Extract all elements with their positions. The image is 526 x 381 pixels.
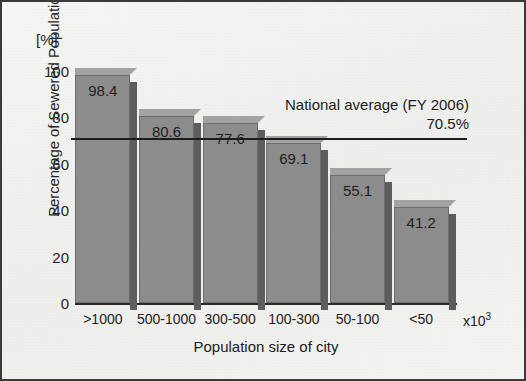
bar: 41.2 <box>394 207 449 303</box>
x-axis-unit-exponent: 3 <box>486 311 492 322</box>
bar-side-face <box>130 82 137 310</box>
bar-value-label: 98.4 <box>75 82 130 99</box>
national-average-line <box>71 138 467 140</box>
bar-top-face <box>139 109 194 116</box>
x-axis-unit: x103 <box>463 311 491 329</box>
bar-value-label: 69.1 <box>266 150 321 167</box>
y-tick-label: 20 <box>52 248 69 265</box>
bar-value-label: 41.2 <box>394 214 449 231</box>
bar-side-face <box>449 214 456 310</box>
bar-value-label: 80.6 <box>139 123 194 140</box>
bar-front-face <box>75 75 130 303</box>
bar: 80.6 <box>139 116 194 303</box>
bar: 55.1 <box>330 175 385 303</box>
bar-side-face <box>385 182 392 310</box>
bar-front-face <box>139 116 194 303</box>
y-tick-label: 60 <box>52 155 69 172</box>
chart-figure: Percentage of Sewered Population [%] 020… <box>0 0 526 381</box>
bar-front-face <box>203 123 258 303</box>
x-tick-label: 500-1000 <box>137 311 196 327</box>
national-average-line1: National average (FY 2006) <box>225 95 469 114</box>
y-tick-label: 100 <box>44 63 69 80</box>
y-tick-label: 40 <box>52 202 69 219</box>
bar: 77.6 <box>203 123 258 303</box>
plot-area: 020406080100 98.480.677.669.155.141.2 Na… <box>75 71 457 305</box>
bar: 98.4 <box>75 75 130 303</box>
bar: 69.1 <box>266 143 321 303</box>
bar-top-face <box>330 168 385 175</box>
x-tick-label: 50-100 <box>336 311 380 327</box>
x-tick-label: <50 <box>409 311 433 327</box>
bar-side-face <box>258 130 265 310</box>
y-axis-unit: [%] <box>36 31 58 48</box>
national-average-label: National average (FY 2006) 70.5% <box>225 95 469 133</box>
y-tick-label: 0 <box>61 295 69 312</box>
x-axis-title: Population size of city <box>75 338 457 355</box>
bar-front-face <box>266 143 321 303</box>
x-tick-label: 100-300 <box>268 311 319 327</box>
x-tick-label: 300-500 <box>204 311 255 327</box>
x-tick-label: >1000 <box>83 311 122 327</box>
national-average-line2: 70.5% <box>225 114 469 133</box>
bar-value-label: 55.1 <box>330 182 385 199</box>
bar-side-face <box>194 123 201 310</box>
bar-top-face <box>394 200 449 207</box>
bar-side-face <box>321 150 328 310</box>
y-tick-label: 80 <box>52 109 69 126</box>
bar-top-face <box>75 68 130 75</box>
